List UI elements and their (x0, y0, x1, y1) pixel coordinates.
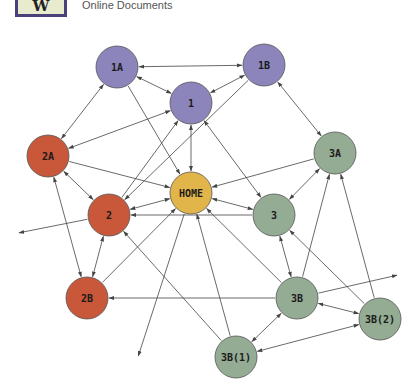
node-label: 3B(2) (365, 314, 395, 325)
node-label: 1B (258, 60, 270, 71)
node-label: 3B (291, 293, 303, 304)
node-label: 1A (111, 62, 123, 73)
node-3a[interactable]: 3A (314, 132, 356, 174)
edge-3B(1)-2 (124, 231, 222, 340)
node-2b[interactable]: 2B (66, 277, 108, 319)
edge-3B-3 (280, 236, 291, 277)
edge-HOME-2 (130, 199, 170, 210)
node-label: 3A (329, 148, 341, 159)
node-label: HOME (179, 188, 203, 199)
edge-2A-HOME (69, 162, 169, 188)
edge-3A-3 (289, 169, 319, 200)
node-label: 3 (271, 210, 277, 221)
edge-2A-2 (64, 171, 93, 199)
edge-HOME-ext-bottom (138, 214, 184, 356)
node-2[interactable]: 2 (88, 194, 130, 236)
edge-HOME-3 (212, 199, 252, 210)
edge-3B-ext-right (318, 275, 397, 293)
node-3b2[interactable]: 3B(2) (359, 298, 401, 340)
edge-2-1 (122, 121, 178, 197)
node-label: 1 (188, 98, 194, 109)
node-1b[interactable]: 1B (243, 44, 285, 86)
node-3[interactable]: 3 (253, 194, 295, 236)
node-label: 2B (81, 293, 93, 304)
edge-1B-1A (139, 65, 242, 66)
node-1a[interactable]: 1A (96, 46, 138, 88)
edge-2-ext-left (19, 219, 87, 233)
edge-1B-3A (278, 82, 321, 136)
edge-1A-2A (61, 84, 103, 138)
edge-3B-3A (303, 174, 330, 276)
node-1[interactable]: 1 (170, 82, 212, 124)
node-label: 2 (106, 210, 112, 221)
node-label: 2A (42, 151, 54, 162)
node-3b[interactable]: 3B (276, 277, 318, 319)
site-structure-diagram: 1A1B12A3AHOME232B3B3B(2)3B(1) (0, 0, 408, 386)
edge-3B-3B(2) (318, 303, 358, 313)
edge-3B(2)-3A (341, 174, 374, 298)
node-3b1[interactable]: 3B(1) (215, 336, 257, 378)
edge-1B-1 (211, 75, 245, 93)
node-label: 3B(1) (221, 352, 251, 363)
edge-2B-2 (93, 236, 104, 276)
edge-2B-2A (54, 177, 81, 277)
node-2a[interactable]: 2A (27, 135, 69, 177)
edge-1A-1 (137, 77, 171, 94)
edge-3B(1)-HOME (197, 214, 230, 336)
edge-2A-1 (69, 111, 171, 149)
edge-3B-3B(1) (252, 313, 281, 341)
edge-3A-HOME (212, 159, 314, 187)
edge-3B(2)-3B(1) (257, 325, 358, 352)
node-home[interactable]: HOME (170, 172, 212, 214)
edge-1-3 (204, 121, 261, 198)
